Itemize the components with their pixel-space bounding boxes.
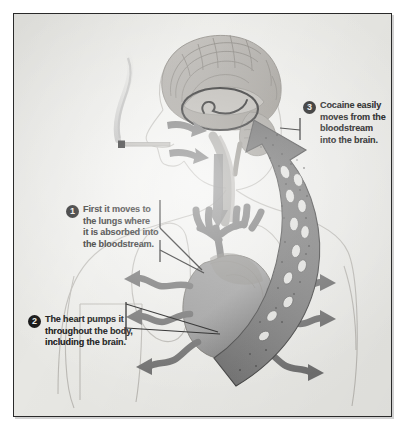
callout-2-line-2: throughout the body, — [45, 326, 133, 338]
callout-lungs-absorption: 1 First it moves to the lungs where it i… — [66, 204, 158, 250]
callout-heart-pumping: 2 The heart pumps it throughout the body… — [28, 314, 133, 349]
callout-3-line-2: moves from the — [320, 112, 386, 124]
illustration-plate: 1 First it moves to the lungs where it i… — [13, 13, 392, 417]
callout-1-line-2: the lungs where — [83, 216, 158, 228]
callout-3-line-1: Cocaine easily — [320, 100, 386, 112]
callout-3-line-3: bloodstream — [320, 123, 386, 135]
callout-2-line-1: The heart pumps it — [45, 314, 133, 326]
figure-page: 1 First it moves to the lungs where it i… — [0, 0, 403, 436]
callout-bullet-2: 2 — [28, 315, 41, 328]
callout-text-2: The heart pumps it throughout the body, … — [45, 314, 133, 349]
callout-1-line-4: the bloodstream. — [83, 239, 158, 251]
callout-1-line-3: it is absorbed into — [83, 227, 158, 239]
callout-3-line-4: into the brain. — [320, 135, 386, 147]
callout-1-line-1: First it moves to — [83, 204, 158, 216]
callout-2-line-3: including the brain. — [45, 337, 133, 349]
callout-text-3: Cocaine easily moves from the bloodstrea… — [320, 100, 386, 146]
callout-bullet-1: 1 — [66, 205, 79, 218]
callout-brain-uptake: 3 Cocaine easily moves from the bloodstr… — [303, 100, 386, 146]
callout-text-1: First it moves to the lungs where it is … — [83, 204, 158, 250]
callout-bullet-3: 3 — [303, 101, 316, 114]
